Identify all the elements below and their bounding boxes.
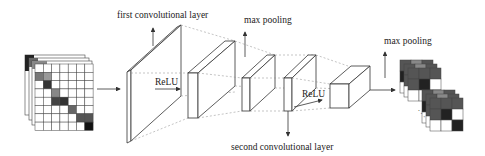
input-feature-maps bbox=[25, 55, 93, 130]
cnn-diagram: first convolutional layer ReLU max pooli… bbox=[0, 0, 485, 156]
label-first-conv: first convolutional layer bbox=[117, 10, 209, 20]
relu1-output-block bbox=[188, 41, 235, 118]
max-pool-1-block bbox=[242, 55, 275, 111]
label-max-pool-1: max pooling bbox=[244, 15, 292, 25]
label-max-pool-2: max pooling bbox=[384, 36, 432, 46]
label-relu-2: ReLU bbox=[302, 89, 325, 99]
input-grid bbox=[35, 64, 93, 130]
relu2-output-cube bbox=[330, 66, 370, 108]
output-feature-maps bbox=[400, 60, 463, 131]
label-second-conv: second convolutional layer bbox=[231, 142, 334, 152]
label-relu-1: ReLU bbox=[155, 77, 178, 87]
